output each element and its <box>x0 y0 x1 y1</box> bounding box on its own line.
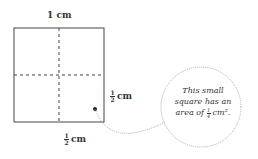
callout-note: This small square has an area of 14cm². <box>168 85 238 119</box>
top-side-label: 1 cm <box>47 10 71 20</box>
square-diagram <box>0 0 258 159</box>
bottom-side-label: 12cm <box>64 133 86 146</box>
right-side-label: 12cm <box>110 90 132 103</box>
